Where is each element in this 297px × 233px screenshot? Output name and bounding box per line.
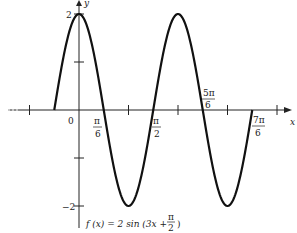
tick-label-7pi-6: 7π 6 [252, 115, 265, 138]
svg-text:6: 6 [205, 100, 211, 110]
tick-label-pi-2: π 2 [152, 116, 161, 139]
svg-text:π: π [168, 212, 174, 222]
svg-text:f (x) = 2 sin (3x +: f (x) = 2 sin (3x + [85, 219, 167, 229]
svg-text:π: π [153, 116, 159, 126]
svg-text:5π: 5π [203, 88, 215, 98]
origin-label: 0 [68, 116, 74, 126]
x-axis-label: x [290, 117, 295, 127]
svg-text:6: 6 [95, 129, 101, 139]
function-label: f (x) = 2 sin (3x + π 2 ) [85, 212, 181, 233]
svg-text:6: 6 [255, 128, 261, 138]
sinusoid-chart: 2 −2 0 x y π 6 π 2 5π 6 7π 6 f (x) = 2 s… [0, 0, 297, 233]
svg-text:): ) [177, 219, 181, 229]
svg-text:2: 2 [168, 223, 174, 233]
svg-text:π: π [94, 116, 100, 126]
y-axis-label: y [83, 0, 90, 8]
y-max-label: 2 [66, 10, 72, 20]
x-axis-arrow-icon [284, 107, 292, 113]
y-min-label: −2 [62, 202, 75, 212]
tick-label-pi-6: π 6 [93, 116, 102, 139]
svg-text:7π: 7π [253, 115, 265, 125]
tick-label-5pi-6: 5π 6 [202, 88, 215, 110]
y-axis-arrow-icon [76, 0, 82, 6]
svg-text:2: 2 [154, 129, 160, 139]
